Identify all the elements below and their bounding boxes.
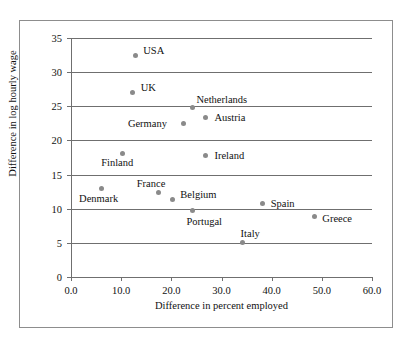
data-point-greece (312, 214, 317, 219)
x-tick-label: 30.0 (200, 285, 244, 296)
point-label-spain: Spain (271, 198, 295, 209)
gridline (71, 140, 372, 141)
plot-area: USAUKNetherlandsAustriaGermanyIrelandFin… (71, 38, 372, 277)
point-label-usa: USA (143, 45, 164, 56)
data-point-finland (120, 151, 125, 156)
data-point-usa (133, 53, 138, 58)
x-tick (171, 277, 172, 281)
y-tick-label: 25 (34, 101, 62, 112)
x-tick (121, 277, 122, 281)
point-label-france: France (137, 178, 166, 189)
y-tick-label: 35 (34, 33, 62, 44)
gridline (71, 243, 372, 244)
x-tick-label: 0.0 (49, 285, 93, 296)
x-tick-label: 20.0 (149, 285, 193, 296)
point-label-greece: Greece (322, 213, 352, 224)
x-tick-label: 60.0 (350, 285, 394, 296)
point-label-uk: UK (141, 82, 156, 93)
y-tick (67, 38, 71, 39)
point-label-netherlands: Netherlands (196, 94, 247, 105)
data-point-uk (130, 90, 135, 95)
y-tick (67, 106, 71, 107)
data-point-belgium (170, 197, 175, 202)
gridline (71, 209, 372, 210)
data-point-netherlands (190, 105, 195, 110)
y-tick (67, 72, 71, 73)
x-tick-label: 40.0 (250, 285, 294, 296)
point-label-belgium: Belgium (180, 189, 216, 200)
data-point-spain (260, 201, 265, 206)
point-label-finland: Finland (101, 157, 133, 168)
data-point-france (156, 190, 161, 195)
y-tick (67, 140, 71, 141)
data-point-denmark (99, 186, 104, 191)
scatter-plot-figure: USAUKNetherlandsAustriaGermanyIrelandFin… (0, 0, 413, 351)
gridline (71, 38, 372, 39)
data-point-germany (181, 121, 186, 126)
point-label-portugal: Portugal (186, 216, 222, 227)
x-tick (71, 277, 72, 281)
y-tick-label: 0 (34, 272, 62, 283)
y-axis-title: Difference in log hourly wage (7, 0, 18, 244)
data-point-ireland (203, 153, 208, 158)
x-tick (222, 277, 223, 281)
x-tick-label: 10.0 (99, 285, 143, 296)
y-tick (67, 243, 71, 244)
y-tick (67, 209, 71, 210)
gridline (71, 175, 372, 176)
x-tick (372, 277, 373, 281)
gridline (71, 72, 372, 73)
point-label-austria: Austria (214, 112, 245, 123)
x-tick (272, 277, 273, 281)
y-tick-label: 20 (34, 135, 62, 146)
point-label-germany: Germany (128, 118, 167, 129)
point-label-ireland: Ireland (214, 150, 244, 161)
y-tick-label: 30 (34, 67, 62, 78)
y-tick (67, 175, 71, 176)
point-label-italy: Italy (241, 228, 260, 239)
data-point-italy (240, 240, 245, 245)
data-point-austria (203, 115, 208, 120)
gridline (71, 106, 372, 107)
data-point-portugal (190, 208, 195, 213)
point-label-denmark: Denmark (79, 193, 118, 204)
x-tick-label: 50.0 (300, 285, 344, 296)
y-tick-label: 10 (34, 204, 62, 215)
x-axis-title: Difference in percent employed (71, 300, 372, 311)
y-tick-label: 15 (34, 170, 62, 181)
y-tick-label: 5 (34, 238, 62, 249)
x-tick (322, 277, 323, 281)
